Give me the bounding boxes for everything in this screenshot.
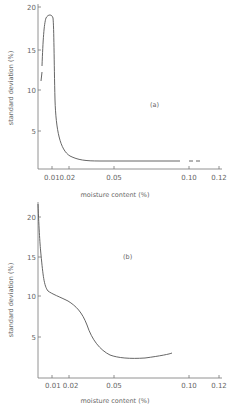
curve-a bbox=[42, 15, 180, 161]
figure: 20 15 10 5 0.010.02 0.05 0.10 0.12 moist… bbox=[0, 0, 239, 409]
x-axis-label-a: moisture content (%) bbox=[81, 191, 150, 199]
panel-a: 20 15 10 5 0.010.02 0.05 0.10 0.12 moist… bbox=[7, 4, 227, 199]
x-tick-012: 0.12 bbox=[211, 174, 227, 182]
x-tick-005: 0.05 bbox=[106, 174, 122, 182]
panel-label-b: (b) bbox=[123, 253, 132, 261]
y-axis-label-b: standard deviation (%) bbox=[7, 263, 15, 337]
y-tick-20: 20 bbox=[27, 214, 36, 222]
curve-b bbox=[38, 204, 172, 358]
y-axis-label-a: standard deviation (%) bbox=[7, 51, 15, 125]
x-axis-label-b: moisture content (%) bbox=[81, 397, 150, 405]
x-tick-005: 0.05 bbox=[106, 382, 122, 390]
x-tick-010: 0.10 bbox=[181, 382, 197, 390]
y-tick-20: 20 bbox=[27, 4, 36, 12]
panel-label-a: (a) bbox=[150, 101, 159, 109]
y-tick-5: 5 bbox=[32, 334, 36, 342]
x-tick-012: 0.12 bbox=[211, 382, 227, 390]
y-tick-10: 10 bbox=[27, 87, 36, 95]
y-tick-15: 15 bbox=[27, 47, 36, 55]
y-tick-10: 10 bbox=[27, 293, 36, 301]
y-tick-5: 5 bbox=[32, 128, 36, 136]
panel-b: 20 15 10 5 0.01 0.02 0.05 0.10 0.12 mois… bbox=[7, 202, 227, 405]
y-tick-15: 15 bbox=[27, 254, 36, 262]
x-tick-001-002: 0.01 0.02 bbox=[45, 382, 78, 390]
x-tick-001-002: 0.010.02 bbox=[44, 174, 75, 182]
x-tick-010: 0.10 bbox=[181, 174, 197, 182]
